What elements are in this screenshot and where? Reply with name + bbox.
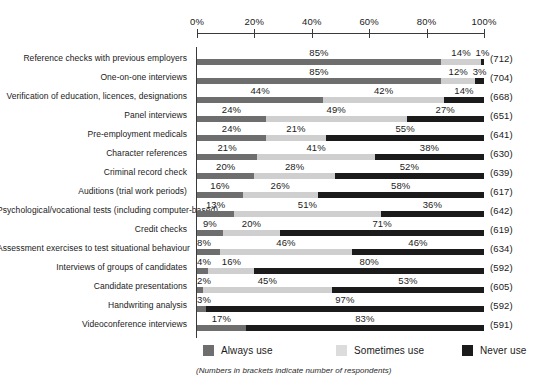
respondent-count: (641): [490, 129, 513, 140]
bar-segment-sometimes: [220, 249, 352, 255]
respondent-count: (605): [490, 281, 513, 292]
bar-segment-always: [197, 173, 254, 179]
bar-segment-sometimes: [323, 97, 444, 103]
bar-value-label: 80%: [360, 256, 379, 267]
bar-segment-never: [332, 287, 484, 293]
x-axis-tick-mark: [369, 29, 370, 38]
x-axis-tick-mark: [254, 29, 255, 38]
respondent-count: (619): [490, 224, 513, 235]
footnote: (Numbers in brackets indicate number of …: [196, 366, 392, 375]
chart-row: 85%12%3%: [197, 66, 484, 85]
bar-value-label: 20%: [216, 161, 235, 172]
respondent-count: (591): [490, 319, 513, 330]
bar-value-label: 24%: [222, 104, 241, 115]
x-axis-tick-label: 80%: [417, 16, 437, 27]
category-label: Videoconference interviews: [0, 319, 187, 329]
chart-row: 9%20%71%: [197, 218, 484, 237]
chart-row: 24%49%27%: [197, 104, 484, 123]
x-axis-tick-label: 60%: [359, 16, 379, 27]
bar-segment-never: [318, 192, 484, 198]
bar-track: [197, 249, 484, 255]
bar-segment-always: [197, 135, 266, 141]
legend-item-sometimes[interactable]: Sometimes use: [336, 345, 424, 356]
respondent-counts: (712)(704)(668)(651)(641)(630)(639)(617)…: [490, 47, 534, 338]
bar-segment-always: [197, 211, 234, 217]
category-label: Pre-employment medicals: [0, 129, 187, 139]
bar-value-label: 83%: [355, 313, 374, 324]
bar-segment-never: [206, 306, 484, 312]
bar-value-label: 27%: [436, 104, 455, 115]
bar-segment-always: [197, 116, 266, 122]
legend-swatch-always-icon: [203, 345, 214, 356]
category-label: Assessment exercises to test situational…: [0, 243, 187, 253]
x-axis-tick-mark: [427, 29, 428, 38]
bar-value-label: 8%: [197, 237, 211, 248]
bar-value-label: 13%: [206, 199, 225, 210]
bar-value-label: 97%: [335, 294, 354, 305]
chart-row: 2%45%53%: [197, 275, 484, 294]
bar-track: [197, 211, 484, 217]
bar-track: [197, 116, 484, 122]
bar-segment-sometimes: [441, 78, 475, 84]
plot-area: 85%14%1%85%12%3%44%42%14%24%49%27%24%21%…: [197, 47, 484, 338]
bar-track: [197, 78, 484, 84]
chart-row: 13%51%36%: [197, 199, 484, 218]
bar-segment-sometimes: [203, 287, 332, 293]
bar-segment-never: [381, 211, 484, 217]
bar-segment-always: [197, 59, 441, 65]
bar-track: [197, 306, 484, 312]
bar-track: [197, 97, 484, 103]
bar-value-label: 36%: [423, 199, 442, 210]
category-label: Candidate presentations: [0, 281, 187, 291]
category-label: Panel interviews: [0, 110, 187, 120]
bar-segment-never: [444, 97, 484, 103]
bar-segment-never: [280, 230, 484, 236]
chart-row: 17%83%: [197, 313, 484, 332]
bar-segment-never: [352, 249, 484, 255]
respondent-count: (639): [490, 167, 513, 178]
category-label: Psychological/vocational tests (includin…: [0, 205, 187, 215]
bar-track: [197, 192, 484, 198]
legend-item-never[interactable]: Never use: [462, 345, 526, 356]
bar-track: [197, 173, 484, 179]
bar-segment-never: [246, 325, 484, 331]
bar-value-label: 26%: [271, 180, 290, 191]
respondent-count: (651): [490, 110, 513, 121]
chart-row: 85%14%1%: [197, 47, 484, 66]
bar-value-label: 4%: [197, 256, 211, 267]
bar-segment-always: [197, 78, 441, 84]
bar-segment-always: [197, 230, 223, 236]
bar-segment-always: [197, 154, 257, 160]
bar-segment-never: [475, 78, 484, 84]
respondent-count: (592): [490, 262, 513, 273]
category-label: Character references: [0, 148, 187, 158]
bar-segment-always: [197, 268, 208, 274]
bar-segment-sometimes: [266, 135, 326, 141]
respondent-count: (634): [490, 243, 513, 254]
respondent-count: (630): [490, 148, 513, 159]
bar-value-label: 21%: [217, 142, 236, 153]
bar-value-label: 52%: [400, 161, 419, 172]
bar-segment-sometimes: [257, 154, 375, 160]
stacked-bar-chart: 0%20%40%60%80%100% Reference checks with…: [0, 0, 534, 392]
bar-segment-sometimes: [234, 211, 380, 217]
bar-value-label: 12%: [448, 66, 467, 77]
bar-segment-always: [197, 249, 220, 255]
legend-label: Sometimes use: [354, 345, 424, 356]
chart-row: 8%46%46%: [197, 237, 484, 256]
bar-value-label: 17%: [212, 313, 231, 324]
chart-row: 21%41%38%: [197, 142, 484, 161]
legend-item-always[interactable]: Always use: [203, 345, 273, 356]
category-label: Handwriting analysis: [0, 300, 187, 310]
respondent-count: (642): [490, 205, 513, 216]
bar-value-label: 46%: [408, 237, 427, 248]
bar-value-label: 46%: [276, 237, 295, 248]
bar-segment-sometimes: [266, 116, 407, 122]
bar-value-label: 49%: [327, 104, 346, 115]
bar-value-label: 41%: [306, 142, 325, 153]
bar-value-label: 16%: [222, 256, 241, 267]
respondent-count: (712): [490, 53, 513, 64]
category-labels: Reference checks with previous employers…: [0, 47, 192, 338]
bar-segment-sometimes: [254, 173, 334, 179]
x-axis-tick-label: 20%: [245, 16, 265, 27]
